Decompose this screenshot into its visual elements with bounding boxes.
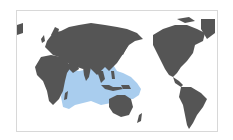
map-frame [16, 10, 218, 132]
west-edge-land [17, 23, 23, 35]
south-america [179, 87, 207, 129]
world-map [17, 11, 217, 131]
british-isles [41, 35, 45, 43]
arctic-islands [177, 17, 195, 23]
central-america [173, 77, 183, 87]
new-zealand [137, 113, 142, 123]
north-america [153, 25, 205, 77]
australia [109, 95, 133, 117]
